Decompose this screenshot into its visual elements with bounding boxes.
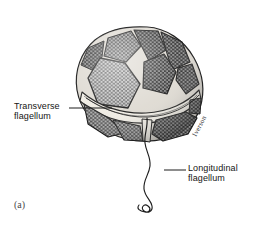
label-transverse-line1: Transverse	[14, 101, 60, 111]
label-longitudinal-flagellum: Longitudinal flagellum	[188, 163, 238, 183]
label-longitudinal-line1: Longitudinal	[188, 163, 238, 173]
label-transverse-flagellum: Transverse flagellum	[14, 101, 60, 121]
label-longitudinal-line2: flagellum	[188, 173, 238, 183]
panel-letter: (a)	[14, 199, 25, 210]
figure-panel: Iverson Transverse flagellum Longitudina…	[0, 0, 270, 228]
label-transverse-line2: flagellum	[14, 111, 60, 121]
dinoflagellate-body	[76, 27, 202, 142]
